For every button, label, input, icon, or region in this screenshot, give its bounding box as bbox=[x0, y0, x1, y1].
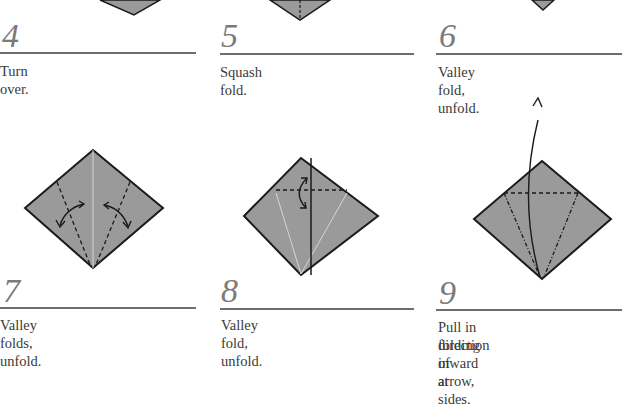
step-4-diagram bbox=[90, 0, 170, 20]
step-number: 4 bbox=[2, 19, 19, 53]
step-5-diagram bbox=[262, 0, 342, 22]
step-number: 8 bbox=[221, 274, 238, 308]
divider bbox=[0, 52, 196, 54]
divider bbox=[0, 307, 196, 309]
step-caption: Valley fold, unfold. bbox=[438, 63, 479, 117]
step-9-diagram bbox=[420, 120, 622, 280]
step-7-diagram bbox=[0, 130, 210, 280]
divider bbox=[436, 309, 622, 311]
step-caption-line-2: folding inward at sides. bbox=[438, 336, 480, 408]
divider bbox=[220, 53, 414, 55]
step-6-diagram bbox=[528, 0, 558, 12]
step-number: 7 bbox=[3, 274, 20, 308]
step-caption: Valley fold, unfold. bbox=[221, 316, 262, 370]
step-8-diagram bbox=[210, 130, 420, 280]
step-number: 6 bbox=[439, 19, 456, 53]
step-number: 5 bbox=[221, 19, 238, 53]
divider bbox=[436, 53, 622, 55]
divider bbox=[220, 308, 414, 310]
step-caption: Squash fold. bbox=[220, 63, 262, 99]
step-caption: Turn over. bbox=[0, 62, 29, 98]
step-number: 9 bbox=[439, 276, 456, 310]
step-caption: Valley folds, unfold. bbox=[0, 316, 41, 370]
